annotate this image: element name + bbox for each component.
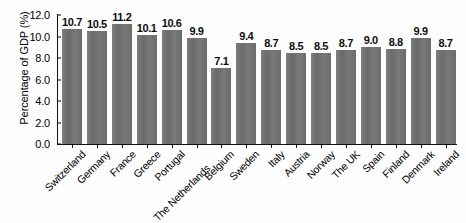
x-axis-tick-mark [72,144,73,148]
x-axis-tick-mark [296,144,297,148]
x-axis-tick-mark [421,144,422,148]
x-axis-tick-mark [122,144,123,148]
x-axis-category-labels: SwitzerlandGermanyFranceGreecePortugalTh… [0,0,466,223]
x-axis-tick-mark [446,144,447,148]
x-axis-tick-mark [321,144,322,148]
x-axis-category-label: Ireland [430,148,460,178]
x-axis-tick-mark [371,144,372,148]
x-axis-tick-mark [221,144,222,148]
x-axis-tick-mark [396,144,397,148]
x-axis-tick-mark [246,144,247,148]
x-axis-tick-mark [271,144,272,148]
x-axis-tick-mark [147,144,148,148]
x-axis-tick-mark [172,144,173,148]
x-axis-tick-mark [346,144,347,148]
x-axis-tick-mark [97,144,98,148]
x-axis-tick-mark [197,144,198,148]
bar-chart: Percentage of GDP (%) 0.02.04.06.08.010.… [0,0,466,223]
